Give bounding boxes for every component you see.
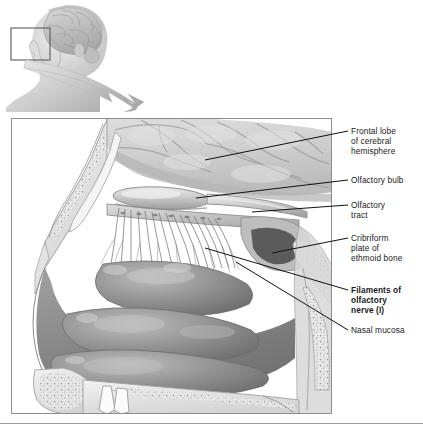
label-line: of cerebral: [351, 136, 396, 146]
label-olfactory-tract: Olfactory tract: [351, 200, 385, 220]
label-frontal-lobe: Frontal lobe of cerebral hemisphere: [351, 126, 396, 156]
head-profile-shape: [6, 5, 107, 112]
label-line: olfactory: [351, 295, 401, 305]
label-line: Olfactory bulb: [351, 175, 404, 185]
label-line: ethmoid bone: [351, 253, 402, 263]
label-cribriform-plate: Cribriform plate of ethmoid bone: [351, 233, 402, 263]
label-nasal-mucosa: Nasal mucosa: [351, 325, 405, 335]
label-line: nerve (I): [351, 305, 401, 315]
label-line: Nasal mucosa: [351, 325, 405, 335]
label-line: hemisphere: [351, 146, 396, 156]
label-line: plate of: [351, 243, 402, 253]
label-olfactory-bulb: Olfactory bulb: [351, 175, 404, 185]
label-line: Frontal lobe: [351, 126, 396, 136]
label-line: Filaments of: [351, 285, 401, 295]
inset-head-illustration: [4, 0, 154, 112]
bottom-divider: [0, 423, 423, 424]
label-filaments-olfactory-nerve: Filaments of olfactory nerve (I): [351, 285, 401, 315]
main-illustration-frame: [11, 118, 332, 414]
label-line: Olfactory: [351, 200, 385, 210]
label-line: tract: [351, 210, 385, 220]
label-line: Cribriform: [351, 233, 402, 243]
